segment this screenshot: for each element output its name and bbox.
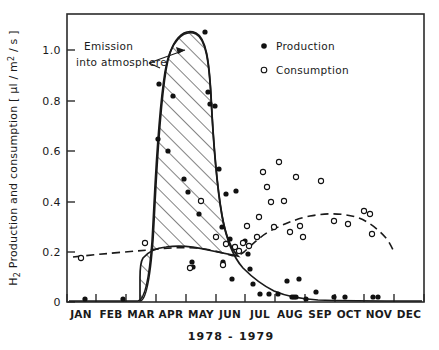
ytick-label-2: 0.4 [42, 196, 61, 209]
legend-label-production: Production [276, 40, 335, 52]
emission-annotation-line1: Emission [84, 40, 133, 52]
production-trend-curve [69, 33, 422, 301]
y-axis-tick-labels: 0 0.2 0.4 0.6 0.8 1.0 [42, 44, 61, 309]
xtick-label-jul: JUL [249, 308, 270, 320]
xtick-label-nov: NOV [366, 308, 393, 320]
xtick-label-mar: MAR [127, 308, 155, 320]
xtick-label-aug: AUG [277, 308, 303, 320]
xtick-label-jan: JAN [69, 308, 92, 320]
xtick-label-may: MAY [188, 308, 214, 320]
ytick-label-3: 0.6 [42, 145, 61, 158]
ytick-label-4: 0.8 [42, 95, 61, 108]
legend-marker-consumption [261, 67, 267, 73]
xtick-label-feb: FEB [99, 308, 122, 320]
chart-legend: Production Consumption [261, 40, 349, 76]
xtick-label-sep: SEP [308, 308, 331, 320]
plot-area [69, 29, 422, 301]
y-axis-ticks [67, 50, 75, 302]
xtick-label-jun: JUN [218, 308, 241, 320]
legend-item-production[interactable]: Production [261, 40, 335, 52]
x-axis-title: 1978 - 1979 [188, 330, 275, 343]
chart-figure: 0 0.2 0.4 0.6 0.8 1.0 H2 Production and … [0, 0, 439, 350]
chart-svg: 0 0.2 0.4 0.6 0.8 1.0 H2 Production and … [0, 0, 439, 350]
xtick-label-dec: DEC [397, 308, 422, 320]
y-axis-title-group: H2 Production and consumption [ µl / m2 … [7, 30, 23, 285]
xtick-label-oct: OCT [337, 308, 362, 320]
ytick-label-5: 1.0 [42, 44, 61, 57]
legend-label-consumption: Consumption [276, 64, 349, 76]
legend-marker-production [261, 43, 267, 49]
legend-item-consumption[interactable]: Consumption [261, 64, 349, 76]
ytick-label-0: 0 [54, 296, 61, 309]
x-axis-tick-labels: JAN FEB MAR APR MAY JUN JUL AUG SEP OCT … [69, 308, 421, 320]
y-axis-title: H2 Production and consumption [ µl / m2 … [7, 30, 23, 285]
ytick-label-1: 0.2 [42, 246, 61, 259]
xtick-label-apr: APR [159, 308, 184, 320]
